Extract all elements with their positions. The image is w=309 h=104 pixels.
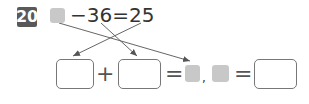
arrow-blank-to-result xyxy=(59,23,190,61)
equals-sign-1: = xyxy=(165,63,183,85)
comma: , xyxy=(202,71,206,85)
blank-placeholder xyxy=(50,8,65,23)
problem-number-badge: 20 xyxy=(17,7,37,27)
equals-sign-2: = xyxy=(234,63,252,85)
answer-box-2[interactable] xyxy=(118,59,161,89)
answer-box-3[interactable] xyxy=(254,59,297,89)
answer-box-1[interactable] xyxy=(56,59,94,89)
result-placeholder-2 xyxy=(212,65,229,82)
equation-text: −36=25 xyxy=(70,5,154,25)
plus-sign: + xyxy=(96,63,114,85)
result-placeholder-1 xyxy=(185,65,200,82)
